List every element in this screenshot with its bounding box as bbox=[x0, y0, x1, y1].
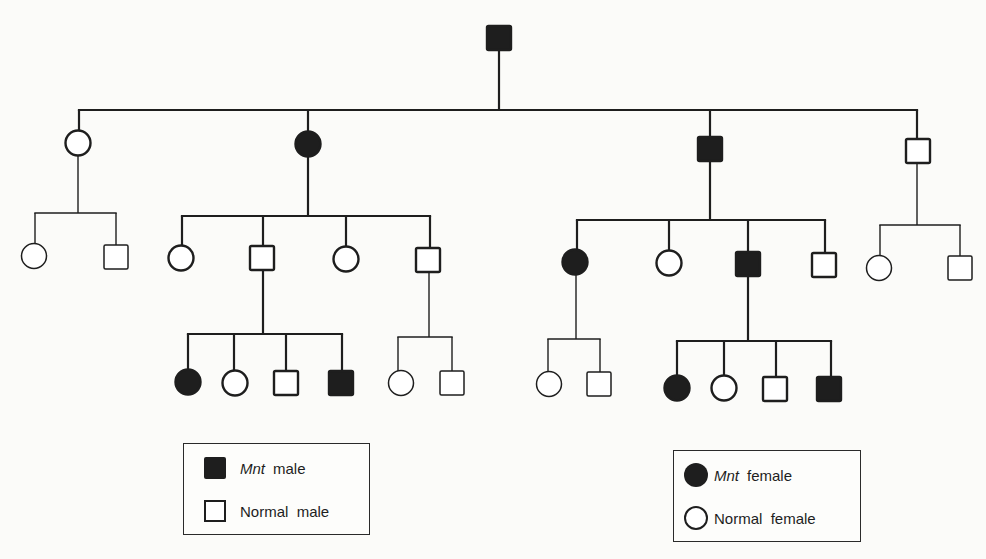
normal-male-square-icon bbox=[204, 500, 226, 522]
normal-female-circle-icon bbox=[712, 376, 737, 401]
legend-label: male bbox=[273, 460, 306, 477]
normal-female-circle-icon bbox=[537, 372, 562, 397]
normal-female-circle-icon bbox=[684, 506, 708, 530]
legend-label: female bbox=[747, 467, 792, 484]
legend-label: Normal female bbox=[714, 510, 816, 527]
normal-female-circle-icon bbox=[867, 256, 892, 281]
affected-female-circle-icon bbox=[563, 250, 588, 275]
normal-male-square-icon bbox=[587, 372, 611, 396]
affected-female-circle-icon bbox=[665, 376, 690, 401]
normal-male-square-icon bbox=[416, 248, 440, 272]
legend-item-mnt-male: Mntmale bbox=[204, 457, 369, 479]
affected-male-square-icon bbox=[329, 371, 353, 395]
normal-female-circle-icon bbox=[334, 247, 359, 272]
affected-male-square-icon bbox=[698, 137, 722, 161]
legend-item-normal-male: Normal male bbox=[204, 500, 369, 522]
normal-male-square-icon bbox=[250, 246, 274, 270]
normal-male-square-icon bbox=[812, 253, 836, 277]
affected-male-square-icon bbox=[204, 457, 226, 479]
normal-female-circle-icon bbox=[389, 371, 414, 396]
normal-male-square-icon bbox=[906, 139, 930, 163]
legend-item-mnt-female: Mntfemale bbox=[684, 463, 860, 487]
legend-trait-label: Mnt bbox=[240, 460, 265, 477]
affected-female-circle-icon bbox=[684, 463, 708, 487]
normal-female-circle-icon bbox=[657, 251, 682, 276]
legend-trait-label: Mnt bbox=[714, 467, 739, 484]
affected-male-square-icon bbox=[817, 377, 841, 401]
normal-male-square-icon bbox=[948, 256, 972, 280]
normal-male-square-icon bbox=[763, 377, 787, 401]
affected-male-square-icon bbox=[487, 26, 511, 50]
normal-male-square-icon bbox=[104, 245, 128, 269]
affected-female-circle-icon bbox=[176, 370, 201, 395]
pedigree-figure: Mntmale Normal male Mntfemale Normal fem… bbox=[0, 0, 986, 559]
affected-female-circle-icon bbox=[296, 132, 321, 157]
legend-male: Mntmale Normal male bbox=[183, 443, 370, 535]
normal-female-circle-icon bbox=[169, 246, 194, 271]
affected-male-square-icon bbox=[736, 252, 760, 276]
normal-female-circle-icon bbox=[223, 371, 248, 396]
legend-label: Normal male bbox=[240, 503, 329, 520]
normal-female-circle-icon bbox=[66, 131, 91, 156]
normal-male-square-icon bbox=[274, 371, 298, 395]
normal-male-square-icon bbox=[440, 371, 464, 395]
normal-female-circle-icon bbox=[22, 244, 47, 269]
legend-item-normal-female: Normal female bbox=[684, 506, 860, 530]
legend-female: Mntfemale Normal female bbox=[673, 450, 861, 542]
